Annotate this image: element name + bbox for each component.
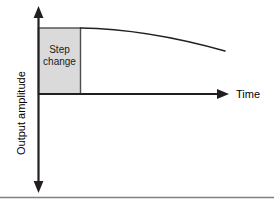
y-axis-label: Output amplitude [15, 71, 27, 155]
y-axis-arrow-down-icon [34, 181, 44, 193]
y-axis-arrow-up-icon [34, 6, 44, 18]
diagram-canvas: Step change Time Output amplitude [0, 0, 274, 205]
x-axis-arrow-right-icon [217, 89, 229, 99]
x-axis-label: Time [236, 88, 260, 100]
step-change-label-line2: change [43, 56, 76, 67]
step-change-label-line1: Step [49, 44, 70, 55]
step-change-figure: Step change Time Output amplitude [0, 0, 274, 205]
response-curve [81, 28, 226, 51]
